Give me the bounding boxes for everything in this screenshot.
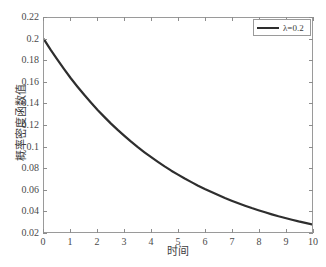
y-axis-tick [43, 125, 47, 126]
y-axis-tick [43, 39, 47, 40]
y-axis-tick [309, 82, 313, 83]
x-axis-tick [232, 229, 233, 233]
y-axis-tick [309, 147, 313, 148]
y-axis-tick [309, 103, 313, 104]
x-axis-tick [178, 229, 179, 233]
y-axis-title: 概率密度函数值 [16, 62, 28, 182]
y-axis-tick-label: 0.22 [0, 12, 39, 22]
x-axis-tick [97, 17, 98, 21]
legend-entry-label: λ=0.2 [283, 23, 304, 33]
x-axis-tick [286, 229, 287, 233]
y-axis-tick [309, 233, 313, 234]
curve-svg [44, 18, 312, 232]
x-axis-tick [70, 229, 71, 233]
y-axis-tick-label: 0.2 [0, 34, 39, 44]
y-axis-tick [309, 60, 313, 61]
x-axis-tick [178, 17, 179, 21]
y-axis-tick [309, 168, 313, 169]
x-axis-tick [151, 229, 152, 233]
x-axis-tick [97, 229, 98, 233]
y-axis-tick [309, 211, 313, 212]
x-axis-tick [313, 17, 314, 21]
x-axis-tick [259, 229, 260, 233]
x-axis-tick [205, 17, 206, 21]
y-axis-tick [43, 60, 47, 61]
y-axis-tick-label: 0.06 [0, 185, 39, 195]
y-axis-tick [309, 190, 313, 191]
y-axis-tick [309, 125, 313, 126]
x-axis-tick [43, 229, 44, 233]
y-axis-tick [309, 39, 313, 40]
legend-line-sample [257, 27, 279, 29]
y-axis-tick [43, 211, 47, 212]
plot-area [43, 17, 313, 233]
x-axis-tick [151, 17, 152, 21]
data-series-line [44, 39, 312, 224]
x-axis-tick [124, 17, 125, 21]
legend-box: λ=0.2 [253, 19, 311, 36]
figure-canvas: 0.020.040.060.080.10.120.140.160.180.20.… [0, 0, 326, 267]
x-axis-tick [124, 229, 125, 233]
x-axis-tick [205, 229, 206, 233]
x-axis-tick [43, 17, 44, 21]
y-axis-tick [43, 82, 47, 83]
y-axis-tick [43, 168, 47, 169]
x-axis-title: 时间 [43, 246, 313, 258]
y-axis-tick [43, 190, 47, 191]
y-axis-tick-label: 0.04 [0, 206, 39, 216]
x-axis-tick [313, 229, 314, 233]
x-axis-tick [232, 17, 233, 21]
x-axis-tick [70, 17, 71, 21]
y-axis-tick [43, 103, 47, 104]
y-axis-tick [43, 233, 47, 234]
y-axis-tick [43, 147, 47, 148]
